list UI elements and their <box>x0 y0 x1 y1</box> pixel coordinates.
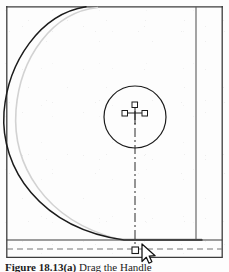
fillet-arc-preview <box>16 8 202 240</box>
drawing-canvas[interactable] <box>6 6 223 258</box>
figure-caption-label: Figure 18.13(a) <box>5 261 76 272</box>
figure-caption-text: Drag the Handle <box>76 261 151 272</box>
grip-top[interactable] <box>132 102 138 108</box>
figure-page: Figure 18.13(a) Drag the Handle <box>0 0 229 272</box>
grip-left[interactable] <box>122 111 128 117</box>
grip-dragged[interactable] <box>132 247 139 254</box>
center-marker <box>126 106 144 124</box>
grip-right[interactable] <box>142 111 148 117</box>
cad-drawing-viewport[interactable] <box>6 6 223 258</box>
figure-caption: Figure 18.13(a) Drag the Handle <box>5 261 229 272</box>
fillet-arc-current[interactable] <box>4 7 202 240</box>
